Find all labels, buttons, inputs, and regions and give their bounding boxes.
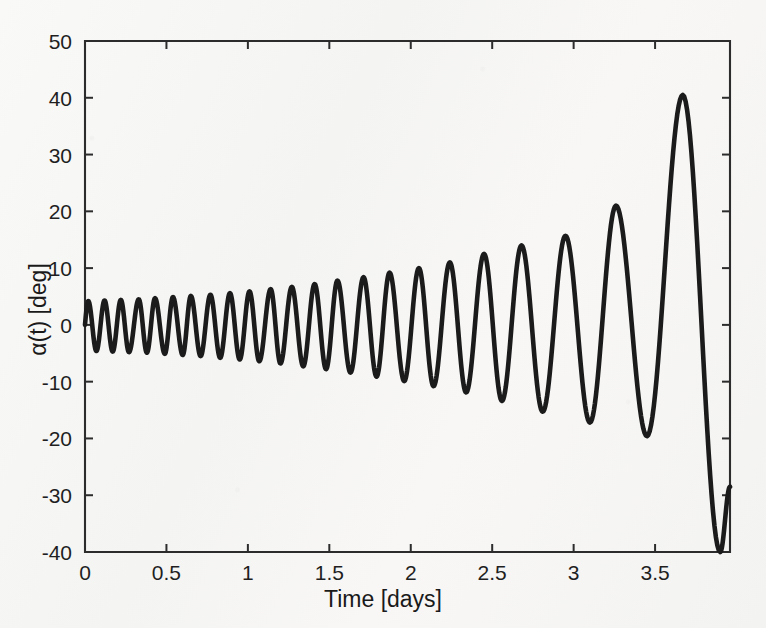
- axes-box: [85, 41, 730, 552]
- x-tick-label: 1.5: [315, 562, 344, 583]
- x-tick-label: 3.5: [640, 562, 669, 583]
- x-tick-label: 0: [79, 562, 91, 583]
- y-tick-label: 30: [0, 144, 72, 165]
- y-tick-label: 40: [0, 87, 72, 108]
- x-tick-label: 2: [405, 562, 417, 583]
- y-axis-ticks: [85, 41, 730, 552]
- y-tick-label: -20: [0, 428, 72, 449]
- x-axis-label: Time [days]: [0, 586, 766, 613]
- figure-canvas: 50403020100-10-20-30-40 00.511.522.533.5…: [0, 0, 766, 628]
- x-tick-label: 0.5: [152, 562, 181, 583]
- y-axis-label: α(t) [deg]: [25, 200, 52, 420]
- data-series-group: [85, 95, 730, 552]
- alpha-curve: [85, 95, 730, 552]
- y-tick-label: -40: [0, 542, 72, 563]
- y-tick-label: 50: [0, 31, 72, 52]
- plot-area: [0, 0, 766, 628]
- axes-frame: [85, 41, 730, 552]
- x-tick-label: 3: [568, 562, 580, 583]
- x-tick-label: 1: [242, 562, 254, 583]
- x-tick-label: 2.5: [478, 562, 507, 583]
- y-tick-label: -30: [0, 485, 72, 506]
